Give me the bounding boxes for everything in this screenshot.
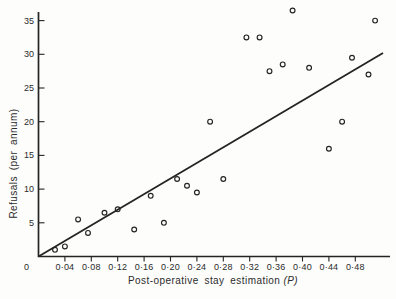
data-point (280, 62, 285, 67)
x-tick-label: 0·12 (108, 262, 127, 272)
x-axis-label-text: Post-operative stay estimation (128, 275, 280, 286)
y-tick-label: 20 (24, 117, 34, 127)
x-tick-label: 0·44 (319, 262, 338, 272)
data-point (373, 18, 378, 23)
data-point (221, 177, 226, 182)
scatter-figure: 0·040·080·120·160·200·240·280·320·360·40… (0, 0, 396, 299)
trend-line (39, 53, 384, 257)
data-point (132, 227, 137, 232)
data-point (86, 231, 91, 236)
data-point (327, 146, 332, 151)
x-tick-label: 0·48 (346, 262, 365, 272)
data-point (340, 119, 345, 124)
data-point (53, 247, 58, 252)
scatter-plot-svg: 0·040·080·120·160·200·240·280·320·360·40… (0, 0, 396, 299)
y-tick-label: 5 (29, 218, 34, 228)
x-tick-label: 0·16 (135, 262, 154, 272)
y-tick-label: 30 (24, 49, 34, 59)
axes-lines (39, 12, 391, 257)
data-point (208, 119, 213, 124)
data-point (185, 183, 190, 188)
data-point (162, 220, 167, 225)
x-tick-label: 0·32 (240, 262, 259, 272)
x-tick-label: 0·04 (55, 262, 74, 272)
data-point (366, 72, 371, 77)
data-point (307, 65, 312, 70)
data-point (76, 217, 81, 222)
x-tick-label: 0·40 (293, 262, 312, 272)
data-point (244, 35, 249, 40)
data-point (63, 244, 68, 249)
y-tick-label: 15 (24, 150, 34, 160)
data-point (175, 177, 180, 182)
data-point (290, 8, 295, 13)
x-axis-label: Post-operative stay estimation(P) (0, 275, 396, 286)
x-tick-label: 0·08 (82, 262, 101, 272)
x-axis-label-symbol: (P) (283, 275, 298, 286)
x-tick-label: 0·28 (214, 262, 233, 272)
y-axis-label-text: Refusals (per annum) (8, 108, 19, 218)
y-tick-label: 25 (24, 83, 34, 93)
y-tick-label: 10 (24, 184, 34, 194)
data-point (350, 55, 355, 60)
x-tick-label: 0·36 (267, 262, 286, 272)
data-point (257, 35, 262, 40)
y-tick-label: 35 (24, 16, 34, 26)
origin-tick-label: 0 (24, 262, 29, 272)
data-point (195, 190, 200, 195)
x-tick-label: 0·24 (187, 262, 206, 272)
data-point (148, 193, 153, 198)
y-axis-label: Refusals (per annum) (8, 94, 19, 234)
data-point (267, 69, 272, 74)
x-tick-label: 0·20 (161, 262, 180, 272)
data-point (102, 210, 107, 215)
